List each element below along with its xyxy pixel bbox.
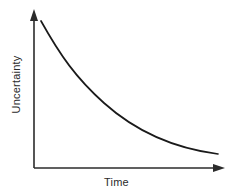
y-axis-label: Uncertainty	[11, 55, 22, 113]
y-axis-label-container: Uncertainty	[0, 0, 33, 168]
x-axis-arrow-right-icon	[213, 164, 225, 172]
x-axis-label: Time	[0, 177, 233, 188]
chart-figure: Uncertainty Time	[0, 0, 233, 196]
decay-curve	[41, 21, 218, 154]
chart-plot-area	[0, 0, 233, 196]
